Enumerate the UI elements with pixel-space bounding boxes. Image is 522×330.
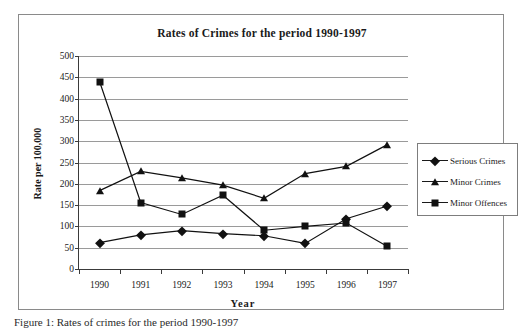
legend-diamond-icon bbox=[430, 156, 439, 165]
y-tick-label-300: 300 bbox=[40, 136, 74, 146]
data-point-square-1991 bbox=[137, 199, 144, 206]
data-point-square-1995 bbox=[302, 223, 309, 230]
data-point-triangle-1993 bbox=[219, 181, 227, 188]
y-tick-label-350: 350 bbox=[40, 115, 74, 125]
plot-area: 0501001502002503003504004505001990199119… bbox=[78, 56, 408, 270]
y-tick-label-100: 100 bbox=[40, 221, 74, 231]
x-tick-label-1990: 1990 bbox=[90, 280, 109, 290]
legend-label: Minor Crimes bbox=[448, 177, 501, 187]
data-point-triangle-1997 bbox=[383, 141, 391, 148]
data-point-square-1992 bbox=[178, 211, 185, 218]
x-tick-mark-4 bbox=[244, 269, 245, 274]
data-point-square-1996 bbox=[343, 219, 350, 226]
x-axis-title: Year bbox=[78, 298, 408, 309]
data-point-square-1997 bbox=[384, 243, 391, 250]
legend-triangle-icon bbox=[431, 178, 439, 185]
series-lines bbox=[79, 56, 408, 269]
y-tick-label-0: 0 bbox=[40, 264, 74, 274]
x-tick-mark-2 bbox=[161, 269, 162, 274]
legend-square-icon bbox=[432, 199, 439, 206]
x-tick-mark-1 bbox=[120, 269, 121, 274]
legend-label: Serious Crimes bbox=[448, 156, 505, 166]
legend-marker-square-icon bbox=[422, 197, 448, 209]
x-tick-label-1995: 1995 bbox=[296, 280, 315, 290]
data-point-triangle-1994 bbox=[260, 194, 268, 201]
x-tick-mark-5 bbox=[285, 269, 286, 274]
legend-marker-triangle-icon bbox=[422, 176, 448, 188]
x-tick-label-1996: 1996 bbox=[337, 280, 356, 290]
data-point-triangle-1991 bbox=[137, 168, 145, 175]
data-point-square-1990 bbox=[96, 78, 103, 85]
x-tick-mark-7 bbox=[367, 269, 368, 274]
data-point-triangle-1995 bbox=[301, 170, 309, 177]
x-tick-label-1993: 1993 bbox=[213, 280, 232, 290]
x-tick-label-1992: 1992 bbox=[172, 280, 191, 290]
y-tick-label-250: 250 bbox=[40, 158, 74, 168]
y-tick-label-450: 450 bbox=[40, 72, 74, 82]
x-tick-mark-0 bbox=[79, 269, 80, 274]
legend-item-minor-crimes[interactable]: Minor Crimes bbox=[422, 171, 513, 192]
chart-frame: Rates of Crimes for the period 1990-1997… bbox=[18, 14, 504, 310]
chart-title: Rates of Crimes for the period 1990-1997 bbox=[19, 27, 505, 39]
legend-item-serious-crimes[interactable]: Serious Crimes bbox=[422, 150, 513, 171]
y-tick-label-500: 500 bbox=[40, 51, 74, 61]
x-tick-mark-8 bbox=[408, 269, 409, 274]
chart-screenshot: Rates of Crimes for the period 1990-1997… bbox=[0, 0, 522, 330]
x-tick-label-1997: 1997 bbox=[378, 280, 397, 290]
y-tick-label-200: 200 bbox=[40, 179, 74, 189]
data-point-triangle-1990 bbox=[96, 187, 104, 194]
legend-label: Minor Offences bbox=[448, 198, 507, 208]
legend-marker-diamond-icon bbox=[422, 155, 448, 167]
legend-item-minor-offences[interactable]: Minor Offences bbox=[422, 192, 513, 213]
data-point-square-1993 bbox=[219, 192, 226, 199]
chart-legend: Serious CrimesMinor CrimesMinor Offences bbox=[417, 143, 518, 216]
y-tick-label-50: 50 bbox=[40, 243, 74, 253]
x-tick-mark-3 bbox=[202, 269, 203, 274]
x-tick-mark-6 bbox=[326, 269, 327, 274]
data-point-triangle-1992 bbox=[178, 174, 186, 181]
y-tick-label-150: 150 bbox=[40, 200, 74, 210]
figure-caption: Figure 1: Rates of crimes for the period… bbox=[14, 316, 238, 328]
data-point-square-1994 bbox=[261, 227, 268, 234]
data-point-triangle-1996 bbox=[342, 162, 350, 169]
y-tick-label-400: 400 bbox=[40, 94, 74, 104]
x-tick-label-1991: 1991 bbox=[131, 280, 150, 290]
x-tick-label-1994: 1994 bbox=[255, 280, 274, 290]
